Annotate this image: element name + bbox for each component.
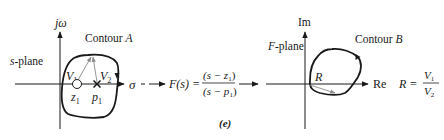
- zero-label: z1: [70, 90, 80, 106]
- contour-a-path: [62, 55, 119, 118]
- sigma-axis-label: σ: [129, 77, 136, 92]
- contour-b-label: Contour B: [355, 33, 403, 45]
- f-plane-label: F-plane: [267, 40, 304, 53]
- pole-label: p1: [91, 90, 102, 106]
- s-plane: jω σ s-plane Contour A V1 V2 z1 p1: [10, 16, 136, 129]
- vector-v2: [93, 57, 97, 82]
- mapping-function: F(s) = (s − z1) (s − p1): [141, 69, 258, 99]
- re-axis-label: Re: [373, 77, 386, 91]
- numerator: (s − z1): [203, 69, 236, 83]
- contour-a-label: Contour A: [85, 32, 134, 44]
- f-plane: Im Re F-plane Contour B R R = V1 V2: [266, 16, 439, 129]
- resultant-vector: [310, 85, 335, 93]
- v2-label: V2: [100, 69, 111, 85]
- resultant-label: R: [314, 70, 323, 84]
- denominator: (s − p1): [203, 85, 237, 99]
- vector-v1: [78, 57, 91, 80]
- contour-mapping-diagram: jω σ s-plane Contour A V1 V2 z1 p1 F(s) …: [0, 0, 444, 140]
- ratio-lhs: R =: [398, 77, 417, 91]
- ratio-denominator: V2: [424, 85, 435, 99]
- zero-marker: [73, 80, 82, 89]
- jw-axis-label: jω: [53, 16, 67, 30]
- function-lhs: F(s) =: [168, 77, 200, 91]
- s-plane-label: s-plane: [10, 55, 43, 68]
- ratio-numerator: V1: [424, 69, 435, 83]
- figure-caption: (e): [219, 117, 231, 130]
- im-axis-label: Im: [298, 16, 311, 28]
